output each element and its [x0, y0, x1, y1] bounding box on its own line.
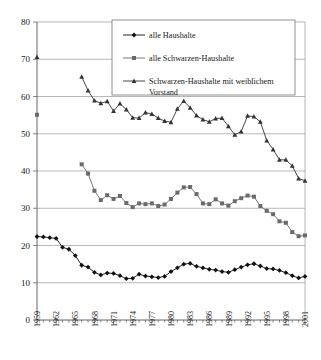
- data-point: [79, 74, 84, 79]
- data-point: [214, 197, 218, 201]
- data-point: [303, 274, 308, 279]
- data-point: [252, 261, 257, 266]
- data-point: [201, 201, 205, 205]
- xtick-label-1989: 1989: [225, 311, 234, 327]
- data-point: [239, 196, 243, 200]
- data-point: [290, 230, 294, 234]
- data-point: [99, 198, 103, 202]
- data-point: [277, 268, 282, 273]
- data-point: [143, 202, 147, 206]
- xtick-label-1998: 1998: [282, 311, 291, 327]
- data-point: [169, 197, 173, 201]
- data-point: [137, 201, 141, 205]
- data-point: [201, 117, 206, 122]
- data-point: [162, 119, 167, 124]
- data-point: [271, 267, 276, 272]
- data-point: [201, 265, 206, 270]
- data-point: [182, 185, 186, 189]
- data-point: [264, 138, 269, 143]
- xtick-label-1971: 1971: [110, 311, 119, 327]
- ytick-label-40: 40: [21, 166, 31, 176]
- data-point: [284, 221, 288, 225]
- data-point: [296, 276, 301, 281]
- data-point: [220, 269, 225, 274]
- data-point: [130, 276, 135, 281]
- data-point: [137, 272, 142, 277]
- data-point: [156, 116, 161, 121]
- data-point: [47, 235, 52, 240]
- xtick-label-1959: 1959: [33, 311, 42, 327]
- ytick-label-30: 30: [21, 203, 31, 213]
- data-point: [124, 201, 128, 205]
- data-point: [246, 194, 250, 198]
- ytick-label-50: 50: [21, 129, 31, 139]
- data-point: [105, 193, 109, 197]
- data-point: [118, 101, 123, 106]
- ytick-label-20: 20: [21, 241, 31, 251]
- data-point: [277, 219, 281, 223]
- data-point: [220, 201, 224, 205]
- data-point: [118, 273, 123, 278]
- data-point: [79, 263, 84, 268]
- data-point: [181, 262, 186, 267]
- data-point: [303, 233, 307, 237]
- data-point: [283, 270, 288, 275]
- data-point: [35, 234, 40, 239]
- data-point: [149, 274, 154, 279]
- ytick-label-70: 70: [21, 54, 31, 64]
- data-point: [245, 262, 250, 267]
- data-point: [124, 276, 129, 281]
- legend-label-3: Schwarzen-Haushalte mit weiblichem: [149, 77, 274, 86]
- data-point: [258, 204, 262, 208]
- data-point: [226, 270, 231, 275]
- data-point: [131, 205, 135, 209]
- xtick-label-1983: 1983: [186, 311, 195, 327]
- data-point: [143, 110, 148, 115]
- data-point: [271, 212, 275, 216]
- data-point: [239, 265, 244, 270]
- xtick-label-1992: 1992: [244, 311, 253, 327]
- line-chart: 0102030405060708019591962196519681971197…: [0, 0, 321, 360]
- data-point: [150, 201, 154, 205]
- data-point: [239, 129, 244, 134]
- data-point: [86, 172, 90, 176]
- xtick-label-2001: 2001: [301, 311, 310, 327]
- data-point: [188, 185, 192, 189]
- data-point: [92, 189, 96, 193]
- data-point: [188, 261, 193, 266]
- data-point: [226, 204, 230, 208]
- data-point: [181, 98, 186, 103]
- xtick-label-1977: 1977: [148, 311, 157, 327]
- data-point: [264, 266, 269, 271]
- data-point: [258, 264, 263, 269]
- data-point: [207, 202, 211, 206]
- data-point: [35, 113, 39, 117]
- data-point: [111, 271, 116, 276]
- data-point: [98, 273, 103, 278]
- legend-marker-2: [132, 56, 136, 60]
- data-point: [163, 203, 167, 207]
- data-point: [86, 88, 91, 93]
- legend-label-2: alle Schwarzen-Haushalte: [149, 54, 235, 63]
- data-point: [156, 275, 161, 280]
- data-point: [207, 267, 212, 272]
- legend-label-1: alle Haushalte: [149, 31, 196, 40]
- ytick-label-0: 0: [26, 315, 31, 325]
- data-point: [265, 209, 269, 213]
- xtick-label-1968: 1968: [91, 311, 100, 327]
- xtick-label-1995: 1995: [263, 311, 272, 327]
- data-point: [118, 194, 122, 198]
- chart-container: 0102030405060708019591962196519681971197…: [0, 0, 321, 360]
- data-point: [252, 195, 256, 199]
- xtick-label-1986: 1986: [205, 311, 214, 327]
- data-point: [175, 265, 180, 270]
- xtick-label-1962: 1962: [52, 311, 61, 327]
- data-point: [233, 199, 237, 203]
- xtick-label-1965: 1965: [71, 311, 80, 327]
- data-point: [156, 204, 160, 208]
- data-point: [213, 268, 218, 273]
- data-point: [296, 176, 301, 181]
- data-point: [35, 55, 40, 60]
- xtick-label-1980: 1980: [167, 311, 176, 327]
- data-point: [232, 267, 237, 272]
